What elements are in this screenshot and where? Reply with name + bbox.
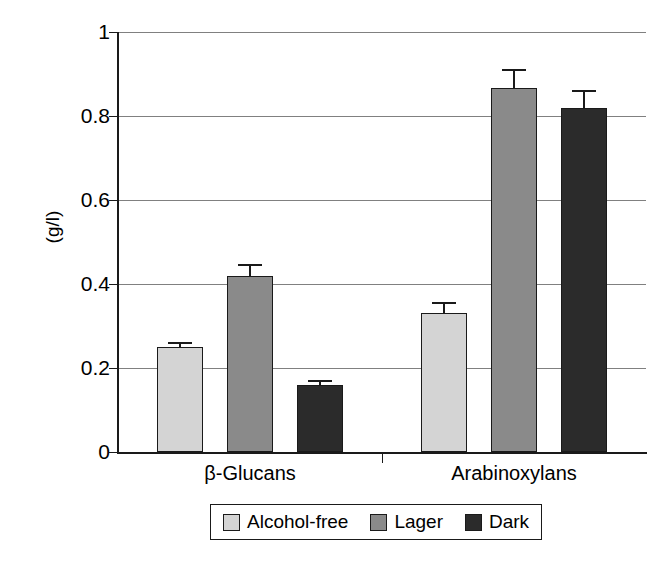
y-tick-label: 0.4 [54,273,110,294]
category-divider [382,452,383,463]
x-category-label: β-Glucans [130,462,370,485]
error-bar-stem [443,302,445,314]
legend-label: Dark [489,511,529,533]
bar [227,276,273,452]
error-bar-stem [179,342,181,347]
bar [297,385,343,452]
error-bar-stem [249,264,251,276]
error-bar [238,264,262,276]
y-tick-label: 0 [54,441,110,462]
chart-legend: Alcohol-freeLagerDark [210,504,542,540]
legend-swatch-dark [465,514,482,531]
y-tick-mark [109,32,118,33]
x-category-label: Arabinoxylans [394,462,634,485]
y-tick-mark [109,452,118,453]
bar [561,108,607,452]
error-bar-stem [513,69,515,88]
bar [491,88,537,452]
y-axis-line [117,32,119,453]
y-tick-mark [109,200,118,201]
error-bar-stem [319,380,321,385]
bar-chart: (g/l) 00.20.40.60.81 β-GlucansArabinoxyl… [0,0,672,566]
legend-label: Lager [394,511,443,533]
bar [421,313,467,452]
legend-item: Alcohol-free [223,511,348,533]
error-bar [502,69,526,88]
plot-area [118,32,646,452]
legend-item: Dark [465,511,529,533]
y-tick-mark [109,368,118,369]
y-tick-label: 0.6 [54,189,110,210]
legend-swatch-lager [370,514,387,531]
y-tick-mark [109,116,118,117]
legend-item: Lager [370,511,443,533]
y-tick-label: 1 [54,21,110,42]
error-bar [572,90,596,109]
error-bar-stem [583,90,585,109]
legend-swatch-alcohol-free [223,514,240,531]
legend-label: Alcohol-free [247,511,348,533]
error-bar [432,302,456,314]
y-tick-label: 0.8 [54,105,110,126]
y-tick-mark [109,284,118,285]
error-bar [308,380,332,385]
bar [157,347,203,452]
error-bar [168,342,192,347]
gridline [118,32,646,33]
y-tick-label: 0.2 [54,357,110,378]
